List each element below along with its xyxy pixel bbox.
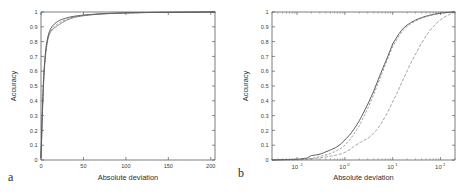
panel-a: a 00.10.20.30.40.50.60.70.80.91050100150… [0,0,236,193]
panel-a-plot: 00.10.20.30.40.50.60.70.80.9105010015020… [0,0,236,193]
svg-text:1: 1 [265,9,268,15]
panel-a-ylabel: Accuracy [9,71,18,102]
panel-b-plot: 00.10.20.30.40.50.60.70.80.9110-11001011… [236,0,471,193]
svg-text:0: 0 [39,163,42,169]
svg-text:0: 0 [34,157,37,163]
svg-text:150: 150 [164,163,173,169]
svg-text:200: 200 [206,163,215,169]
svg-text:0.2: 0.2 [261,128,269,134]
panel-b-xlabel: Absolute deviation [333,173,393,182]
svg-text:-1: -1 [299,162,303,167]
svg-text:0.1: 0.1 [30,142,38,148]
svg-text:100: 100 [121,163,130,169]
svg-text:0.2: 0.2 [30,128,38,134]
svg-text:2: 2 [443,162,446,167]
panel-b-ylabel: Accuracy [241,71,250,102]
panel-b: b 00.10.20.30.40.50.60.70.80.9110-110010… [236,0,471,193]
svg-text:0.5: 0.5 [261,83,269,89]
svg-text:10: 10 [435,164,442,170]
svg-text:0.3: 0.3 [30,113,38,119]
svg-text:0.6: 0.6 [30,68,38,74]
svg-text:0: 0 [265,157,268,163]
svg-text:0.5: 0.5 [30,83,38,89]
svg-text:0.8: 0.8 [261,39,269,45]
panel-a-xlabel: Absolute deviation [98,173,158,182]
svg-text:50: 50 [80,163,86,169]
panel-b-letter: b [238,166,244,181]
svg-text:0.1: 0.1 [261,142,269,148]
svg-text:10: 10 [387,164,394,170]
svg-text:0: 0 [347,162,350,167]
figure-root: a 00.10.20.30.40.50.60.70.80.91050100150… [0,0,471,193]
svg-text:0.4: 0.4 [261,98,269,104]
svg-text:0.6: 0.6 [261,68,269,74]
panel-a-letter: a [8,170,13,185]
svg-text:0.7: 0.7 [261,54,269,60]
svg-text:0.4: 0.4 [30,98,38,104]
svg-text:10: 10 [291,164,298,170]
svg-text:10: 10 [339,164,346,170]
svg-text:1: 1 [395,162,398,167]
svg-text:0.8: 0.8 [30,39,38,45]
svg-text:1: 1 [34,9,37,15]
svg-text:0.9: 0.9 [30,24,38,30]
svg-text:0.3: 0.3 [261,113,269,119]
svg-text:0.9: 0.9 [261,24,269,30]
svg-text:0.7: 0.7 [30,54,38,60]
